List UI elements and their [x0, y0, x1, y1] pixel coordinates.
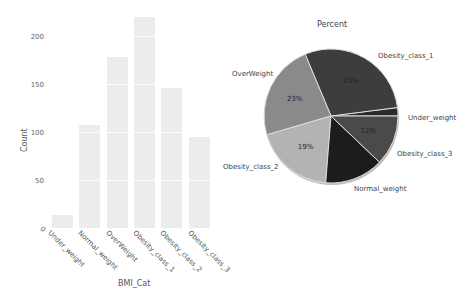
y-tick-100: 100 — [22, 129, 44, 137]
label-under-weight: Under_weight — [408, 114, 456, 122]
y-tick-200: 200 — [22, 33, 44, 41]
pct-label: 29% — [343, 77, 359, 85]
bar-obesity-class-1 — [134, 17, 155, 228]
gridline — [48, 84, 218, 85]
label-obesity-class-2: Obesity_class_2 — [223, 163, 279, 171]
pct-label: 23% — [287, 95, 303, 103]
pct-label: 14% — [338, 150, 354, 158]
bar-obesity-class-3 — [189, 137, 210, 228]
bar-obesity-class-2 — [161, 88, 182, 228]
label-normal-weight: Normal_weight — [354, 185, 406, 193]
pct-label: 12% — [361, 127, 377, 135]
gridline — [48, 132, 218, 133]
bar-overweight — [107, 57, 128, 228]
label-overweight: OverWeight — [232, 70, 273, 78]
bar-under-weight — [52, 215, 73, 228]
bar-chart: Count 200 150 100 50 0Under_weightNormal… — [0, 0, 235, 302]
bar-normal-weight — [79, 125, 100, 228]
pct-label: 19% — [298, 143, 314, 151]
y-tick-150: 150 — [22, 81, 44, 89]
gridline — [48, 180, 218, 181]
label-obesity-class-1: Obesity_class_1 — [378, 52, 434, 60]
label-obesity-class-3: Obesity_class_3 — [397, 150, 453, 158]
y-tick-50: 50 — [22, 177, 44, 185]
gridline — [48, 36, 218, 37]
pie-chart: Percent 2%29%23%19%14%12% Obesity_class_… — [235, 0, 475, 302]
y-tick-0: 0 — [38, 225, 47, 234]
x-axis-label: BMI_Cat — [118, 279, 150, 288]
